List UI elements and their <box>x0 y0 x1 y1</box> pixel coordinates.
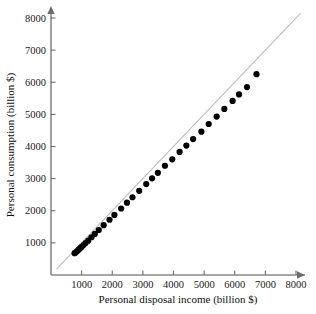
x-tick-label-5000: 5000 <box>194 279 215 290</box>
data-point <box>214 114 220 120</box>
data-point <box>198 129 204 135</box>
data-point <box>236 91 242 97</box>
x-tick-label-3000: 3000 <box>132 279 153 290</box>
reference-line-group <box>57 13 301 269</box>
y-axis-group: 10002000300040005000600070008000 <box>25 6 56 275</box>
data-point <box>244 84 250 90</box>
y-axis-title: Personal consumption (billion $) <box>4 72 17 217</box>
data-point <box>101 222 107 228</box>
x-axis-tick-labels: 10002000300040005000600070008000 <box>71 279 306 290</box>
y-tick-label-8000: 8000 <box>25 13 46 24</box>
data-point <box>183 142 189 148</box>
data-points-group <box>71 71 259 256</box>
y-tick-label-7000: 7000 <box>25 45 46 56</box>
data-point <box>230 98 236 104</box>
data-point <box>143 181 149 187</box>
y-tick-label-1000: 1000 <box>25 237 46 248</box>
x-tick-label-7000: 7000 <box>255 279 276 290</box>
data-point <box>129 194 135 200</box>
x-tick-label-4000: 4000 <box>163 279 184 290</box>
data-point <box>96 227 102 233</box>
x-axis-group: 10002000300040005000600070008000 <box>51 271 307 291</box>
data-point <box>221 106 227 112</box>
y-tick-label-5000: 5000 <box>25 109 46 120</box>
y-tick-label-4000: 4000 <box>25 141 46 152</box>
x-tick-label-2000: 2000 <box>102 279 123 290</box>
data-point <box>118 205 124 211</box>
data-point <box>149 175 155 181</box>
x-tick-label-1000: 1000 <box>71 279 92 290</box>
data-point <box>190 136 196 142</box>
y-tick-label-6000: 6000 <box>25 77 46 88</box>
y-tick-label-2000: 2000 <box>25 205 46 216</box>
plot-canvas: 10002000300040005000600070008000 1000200… <box>0 0 316 314</box>
x-axis-title: Personal disposal income (billion $) <box>99 293 258 306</box>
data-point <box>253 71 259 77</box>
data-point <box>169 156 175 162</box>
data-point <box>177 149 183 155</box>
scatter-plot-figure: 10002000300040005000600070008000 1000200… <box>0 0 316 314</box>
x-axis-arrow-icon <box>297 271 305 278</box>
data-point <box>136 188 142 194</box>
y-tick-label-3000: 3000 <box>25 173 46 184</box>
data-point <box>155 170 161 176</box>
y-axis-tick-labels: 10002000300040005000600070008000 <box>25 13 46 249</box>
data-point <box>162 163 168 169</box>
reference-line <box>57 13 301 269</box>
y-axis-arrow-icon <box>47 6 54 14</box>
data-point <box>124 200 130 206</box>
data-point <box>111 212 117 218</box>
data-point <box>206 121 212 127</box>
data-point <box>106 217 112 223</box>
x-tick-label-8000: 8000 <box>286 279 307 290</box>
x-tick-label-6000: 6000 <box>224 279 245 290</box>
